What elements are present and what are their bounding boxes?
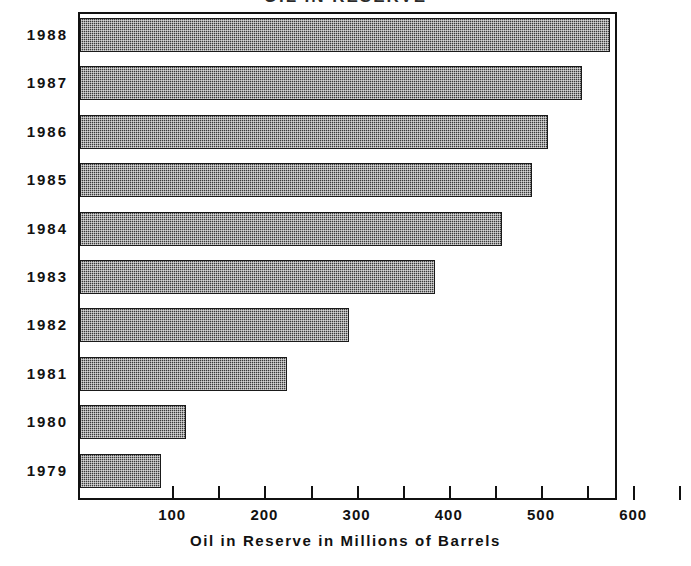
x-axis-tick-label-400: 400 [419,506,479,523]
bar-row [80,357,287,391]
x-axis-tick-100 [172,486,174,500]
x-axis-tick-label-600: 600 [603,506,663,523]
bar-1988[interactable] [80,18,610,52]
x-axis-tick-550 [587,486,589,500]
bar-1982[interactable] [80,308,349,342]
bar-1987[interactable] [80,66,582,100]
y-axis-label-1985: 1985 [0,171,68,188]
x-axis-tick-label-300: 300 [327,506,387,523]
x-axis-tick-500 [541,486,543,500]
y-axis-label-1981: 1981 [0,365,68,382]
bar-1983[interactable] [80,260,435,294]
bar-row [80,212,502,246]
x-axis-tick-400 [449,486,451,500]
y-axis-label-1984: 1984 [0,220,68,237]
x-axis-tick-150 [218,486,220,500]
bar-row [80,260,435,294]
x-axis-tick-450 [495,486,497,500]
bar-row [80,454,161,488]
x-axis-tick-650 [679,486,681,500]
bar-1981[interactable] [80,357,287,391]
bar-1980[interactable] [80,405,186,439]
bar-row [80,308,349,342]
bar-row [80,405,186,439]
y-axis-label-1987: 1987 [0,74,68,91]
x-axis-tick-label-200: 200 [234,506,294,523]
bar-row [80,115,548,149]
x-axis-tick-label-500: 500 [511,506,571,523]
y-axis-label-1979: 1979 [0,462,68,479]
x-axis-tick-600 [633,486,635,500]
bar-1984[interactable] [80,212,502,246]
x-axis-tick-label-100: 100 [142,506,202,523]
bar-row [80,18,610,52]
bars-layer [80,14,615,498]
chart-title: OIL IN RESERVE [0,0,691,7]
x-axis-tick-250 [311,486,313,500]
x-axis-tick-300 [357,486,359,500]
x-axis-tick-350 [403,486,405,500]
bar-chart: OIL IN RESERVE 1988198719861985198419831… [0,0,691,566]
bar-1986[interactable] [80,115,548,149]
bar-row [80,66,582,100]
bar-1979[interactable] [80,454,161,488]
y-axis-label-1986: 1986 [0,123,68,140]
bar-row [80,163,532,197]
x-axis-tick-200 [264,486,266,500]
y-axis-label-1988: 1988 [0,26,68,43]
x-axis-title: Oil in Reserve in Millions of Barrels [0,532,691,549]
y-axis-label-1980: 1980 [0,413,68,430]
y-axis-label-1982: 1982 [0,316,68,333]
x-axis-ticks [80,486,617,500]
y-axis-label-1983: 1983 [0,268,68,285]
bar-1985[interactable] [80,163,532,197]
